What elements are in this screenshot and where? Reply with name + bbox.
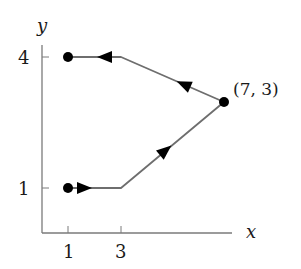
path-diagram: y x 4 1 1 3 (7, 3) xyxy=(0,0,301,269)
x-tick-label-3: 3 xyxy=(115,241,126,262)
x-tick-label-1: 1 xyxy=(63,241,74,262)
y-tick-label-1: 1 xyxy=(18,178,29,199)
arrow-left-icon xyxy=(97,51,112,63)
point-1-4 xyxy=(63,52,73,62)
point-1-1 xyxy=(63,183,73,193)
arrow-right-icon xyxy=(77,182,92,194)
path-line xyxy=(68,57,224,188)
arrow-up-left-icon xyxy=(174,76,193,93)
y-tick-label-4: 4 xyxy=(18,47,29,68)
point-label-7-3: (7, 3) xyxy=(233,79,279,99)
y-axis-label: y xyxy=(36,15,48,36)
point-7-3 xyxy=(219,97,229,107)
x-axis-label: x xyxy=(246,221,256,242)
